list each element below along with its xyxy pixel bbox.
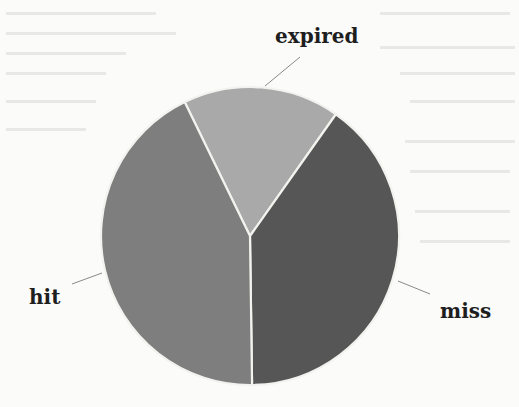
leader-line-hit [72, 273, 102, 284]
leader-line-miss [398, 281, 430, 294]
pie-chart: expired hit miss [0, 0, 519, 407]
slice-label-hit: hit [29, 285, 61, 309]
slice-label-expired: expired [275, 24, 358, 48]
leader-line-expired [265, 57, 300, 86]
pie-slices [101, 87, 399, 385]
slice-label-miss: miss [440, 299, 491, 323]
chart-page: expired hit miss [0, 0, 519, 407]
